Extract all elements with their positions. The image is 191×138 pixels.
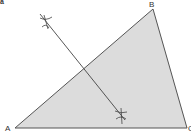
triangle-abc bbox=[15, 9, 187, 128]
triangle-diagram: A B C bbox=[0, 0, 191, 138]
vertex-label-b: B bbox=[149, 0, 154, 9]
vertex-label-a: A bbox=[5, 124, 11, 133]
vertex-label-c: C bbox=[188, 124, 191, 133]
